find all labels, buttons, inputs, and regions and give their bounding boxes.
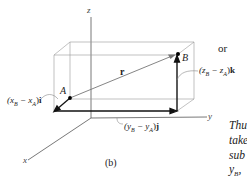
- side-text-line-3: sub: [229, 150, 245, 162]
- x-axis-label: x: [23, 156, 27, 165]
- i-minus: − x: [18, 95, 33, 105]
- leader-lines: [41, 71, 198, 124]
- x-axis: [28, 118, 91, 160]
- k-unit: k: [230, 65, 235, 75]
- i-open: (x: [7, 95, 14, 105]
- z-axis-label: z: [87, 6, 91, 15]
- point-b-dot: [176, 52, 180, 56]
- side-text-line-1: Thu: [229, 120, 247, 132]
- i-component-label: (xB − xA)i: [7, 96, 41, 107]
- side-comma: ,: [238, 163, 241, 175]
- position-vector-diagram: [0, 0, 247, 181]
- k-minus: − z: [209, 65, 223, 75]
- side-text-or: or: [218, 43, 227, 54]
- j-minus: − y: [135, 121, 150, 131]
- j-component-label: (yB − yA)j: [124, 122, 159, 133]
- y-axis-label: y: [208, 112, 212, 121]
- r-vector-label: r: [120, 67, 124, 77]
- k-component-label: (zB − zA)k: [199, 66, 235, 77]
- side-text-line-4: yB,: [229, 164, 241, 178]
- y-axis: [91, 117, 207, 118]
- j-unit: j: [156, 121, 159, 131]
- figure-caption: (b): [105, 158, 117, 168]
- j-open: (y: [124, 121, 131, 131]
- point-b-label: B: [182, 53, 188, 63]
- component-vectors: [54, 56, 180, 114]
- i-unit: i: [39, 95, 42, 105]
- point-a-label: A: [60, 86, 66, 96]
- side-text-line-2: take: [229, 135, 247, 147]
- point-a-dot: [68, 96, 72, 100]
